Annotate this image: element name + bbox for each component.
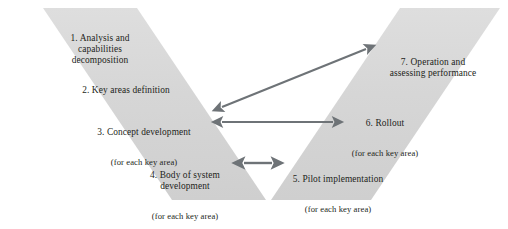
step-5-sub: (for each key area)	[278, 204, 398, 214]
diagram-canvas: 1. Analysis and capabilities decompositi…	[0, 0, 508, 229]
step-6-sub: (for each key area)	[330, 148, 440, 158]
step-7-label: 7. Operation and assessing performance	[372, 38, 494, 117]
step-6-title: 6. Rollout	[330, 118, 440, 129]
step-2-title: 2. Key areas definition	[56, 85, 196, 96]
step-4-title: 4. Body of system development	[130, 170, 240, 192]
step-4-sub: (for each key area)	[130, 211, 240, 221]
step-7-title: 7. Operation and assessing performance	[372, 57, 494, 79]
step-1-title: 1. Analysis and capabilities decompositi…	[44, 33, 156, 66]
step-3-title: 3. Concept development	[78, 127, 210, 138]
step-4-label: 4. Body of system development (for each …	[130, 151, 240, 229]
